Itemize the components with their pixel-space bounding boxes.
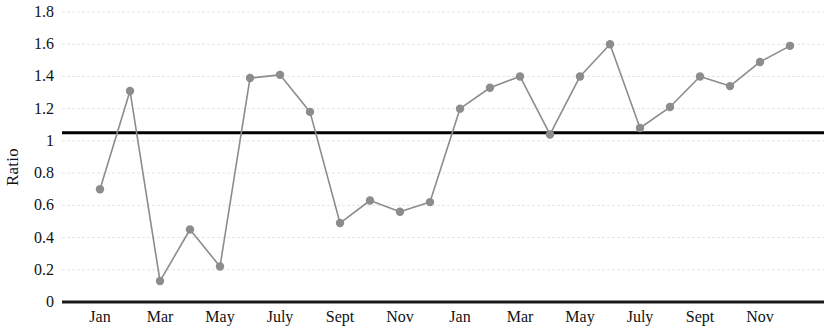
x-axis-tick-label: May	[565, 307, 594, 326]
x-axis-tick-label: Sept	[686, 307, 714, 326]
x-axis-tick-label: Mar	[147, 307, 174, 326]
y-axis-tick-labels: 00.20.40.60.811.21.41.61.8	[26, 0, 58, 334]
y-axis-tick-label: 0.6	[34, 197, 54, 213]
x-axis-tick-label: Mar	[507, 307, 534, 326]
x-axis-tick-label: Jan	[449, 307, 470, 326]
ratio-line-chart: Ratio 00.20.40.60.811.21.41.61.8 JanMarM…	[0, 0, 829, 334]
data-point-marker	[216, 262, 224, 270]
data-point-marker	[126, 87, 134, 95]
data-point-marker	[786, 42, 794, 50]
x-axis-tick-label: July	[627, 307, 654, 326]
y-axis-tick-label: 1	[46, 133, 54, 149]
data-point-marker	[696, 72, 704, 80]
x-axis-tick-label: Nov	[386, 307, 414, 326]
x-axis-tick-labels: JanMarMayJulySeptNovJanMarMayJulySeptNov	[62, 305, 824, 334]
data-point-marker	[666, 103, 674, 111]
data-point-marker	[336, 219, 344, 227]
series-line	[100, 44, 790, 281]
data-point-marker	[306, 108, 314, 116]
data-point-marker	[246, 74, 254, 82]
data-point-marker	[276, 71, 284, 79]
x-axis-tick-label: July	[267, 307, 294, 326]
data-point-marker	[516, 72, 524, 80]
data-point-marker	[96, 185, 104, 193]
y-axis-tick-label: 1.2	[34, 101, 54, 117]
plot-area	[62, 0, 824, 334]
gridlines	[62, 12, 824, 270]
x-axis-tick-label: Nov	[746, 307, 774, 326]
series-polyline	[100, 44, 790, 281]
x-axis-tick-label: Sept	[326, 307, 354, 326]
y-axis-tick-label: 1.4	[34, 68, 54, 84]
data-point-marker	[186, 225, 194, 233]
y-axis-tick-label: 0.2	[34, 262, 54, 278]
y-axis-tick-label: 1.6	[34, 36, 54, 52]
y-axis-tick-label: 1.8	[34, 4, 54, 20]
x-axis-tick-label: May	[205, 307, 234, 326]
y-axis-tick-label: 0.4	[34, 230, 54, 246]
data-point-marker	[456, 104, 464, 112]
data-point-marker	[576, 72, 584, 80]
plot-svg	[62, 0, 824, 334]
data-point-marker	[156, 277, 164, 285]
data-point-marker	[426, 198, 434, 206]
data-point-marker	[396, 208, 404, 216]
data-point-marker	[756, 58, 764, 66]
y-axis-tick-label: 0.8	[34, 165, 54, 181]
data-point-marker	[606, 40, 614, 48]
x-axis-tick-label: Jan	[89, 307, 110, 326]
data-point-marker	[726, 82, 734, 90]
data-point-marker	[636, 124, 644, 132]
y-axis-title: Ratio	[0, 0, 26, 334]
y-axis-title-label: Ratio	[3, 148, 23, 186]
data-point-marker	[366, 196, 374, 204]
data-point-marker	[486, 84, 494, 92]
data-point-marker	[546, 130, 554, 138]
y-axis-tick-label: 0	[46, 294, 54, 310]
